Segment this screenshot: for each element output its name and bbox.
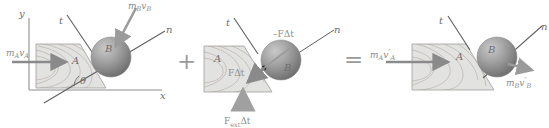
panel-final-momenta: A t n B mAv′A xyxy=(366,0,549,128)
n-axis-label: n xyxy=(166,24,172,35)
x-axis-label: x xyxy=(160,90,166,101)
sphere-b-label: B xyxy=(104,43,112,54)
momentum-a-initial-label: mAvA xyxy=(6,48,29,60)
momentum-a-final-label: mAv′A xyxy=(370,48,395,63)
n-axis-label: n xyxy=(541,21,547,32)
external-impulse-label: FextΔt xyxy=(224,116,251,128)
impulse-on-a-label: FΔt xyxy=(228,68,245,78)
momentum-b-initial-arrow xyxy=(116,8,136,46)
sphere-b: B xyxy=(91,37,131,77)
operator-equals: = xyxy=(344,48,363,71)
panel-initial-momenta: y x A xyxy=(0,0,180,128)
momentum-b-initial-label: mBvB xyxy=(128,1,151,13)
t-axis-label: t xyxy=(226,17,231,28)
block-a-label: A xyxy=(455,51,463,62)
block-a-label: A xyxy=(71,55,79,66)
n-axis-label: n xyxy=(334,24,340,35)
panel-impulses: A t n B FΔt xyxy=(186,0,344,128)
impulse-on-b-label: –FΔt xyxy=(273,29,294,39)
sphere-b-label: B xyxy=(283,62,291,73)
sphere-b: B xyxy=(477,37,517,77)
sphere-b-label: B xyxy=(487,44,495,55)
impulse-momentum-figure: y x A xyxy=(0,0,549,128)
t-axis-label: t xyxy=(59,15,64,26)
y-axis-label: y xyxy=(18,8,25,19)
block-a-label: A xyxy=(213,53,221,64)
angle-theta-label: θ xyxy=(80,75,86,86)
sphere-b: B xyxy=(261,40,301,80)
momentum-b-final-label: mBv′B xyxy=(506,76,531,91)
t-axis-label: t xyxy=(439,15,444,26)
